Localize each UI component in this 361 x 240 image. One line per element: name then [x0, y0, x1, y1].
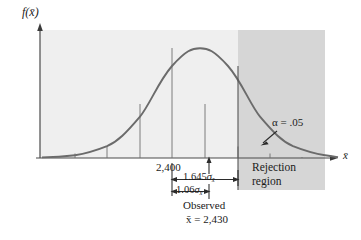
observed-label: Observed	[183, 200, 225, 211]
rejection-region-label-line2: region	[252, 176, 281, 188]
alpha-label: α = .05	[272, 117, 303, 128]
dimension-106-label: 1.06σx̄	[176, 185, 202, 196]
x-axis-label: x̄	[343, 150, 348, 161]
dimension-1645-value: 1.645	[183, 171, 207, 182]
dimension-106-value: 1.06	[176, 184, 194, 195]
figure-container: f(x̄) x̄ 2,400 α = .05 Rejection region …	[0, 0, 361, 240]
dimension-1645-subscript: x̄	[212, 176, 215, 183]
rejection-region-label-line1: Rejection	[252, 162, 296, 174]
mean-tick-label: 2,400	[156, 162, 181, 173]
y-axis-label: f(x̄)	[22, 6, 39, 18]
dimension-106-subscript: x̄	[200, 188, 203, 195]
dimension-1645-label: 1.645σx̄	[183, 172, 215, 183]
distribution-chart	[0, 0, 361, 240]
observed-value: x̄ = 2,430	[186, 214, 228, 225]
